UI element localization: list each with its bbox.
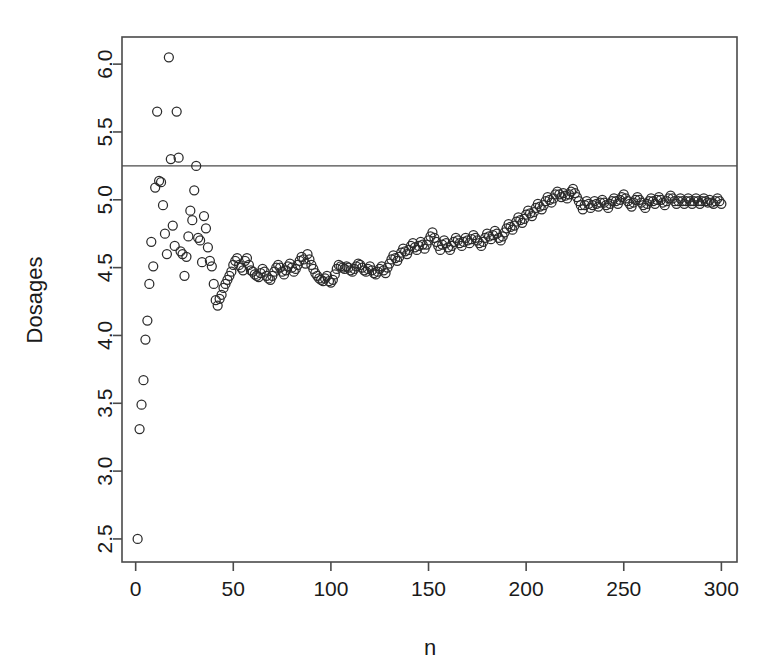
- y-tick-label: 6.0: [93, 50, 116, 79]
- x-tick-label: 150: [411, 577, 446, 600]
- x-axis-title: n: [424, 635, 436, 660]
- x-tick-label: 300: [704, 577, 739, 600]
- y-tick-label: 4.5: [93, 253, 116, 282]
- plot-canvas: 2.53.03.54.04.55.05.56.0 050100150200250…: [0, 0, 771, 670]
- x-tick-label: 100: [313, 577, 348, 600]
- y-tick-label: 3.0: [93, 457, 116, 486]
- y-tick-label: 4.0: [93, 321, 116, 350]
- y-tick-label: 2.5: [93, 524, 116, 553]
- x-tick-label: 50: [222, 577, 245, 600]
- x-tick-label: 250: [606, 577, 641, 600]
- scatter-plot-figure: 2.53.03.54.04.55.05.56.0 050100150200250…: [0, 0, 771, 670]
- y-tick-label: 5.0: [93, 185, 116, 214]
- y-axis-title: Dosages: [22, 257, 47, 344]
- x-tick-label: 200: [509, 577, 544, 600]
- x-tick-label: 0: [130, 577, 142, 600]
- y-tick-label: 5.5: [93, 117, 116, 146]
- y-tick-label: 3.5: [93, 389, 116, 418]
